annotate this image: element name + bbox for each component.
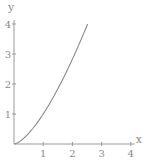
chart: 1234 1234 x y	[0, 0, 146, 161]
y-tick-label: 2	[5, 79, 11, 90]
x-tick-label: 1	[40, 148, 46, 159]
x-axis-label: x	[136, 133, 143, 146]
y-tick-label: 4	[5, 19, 11, 30]
x-tick-label: 3	[98, 148, 104, 159]
x-tick-label: 4	[128, 148, 134, 159]
x-tick-label: 2	[69, 148, 75, 159]
series-line	[14, 24, 88, 144]
y-tick-label: 1	[5, 109, 11, 120]
y-tick-label: 3	[5, 49, 11, 60]
y-axis-label: y	[7, 1, 15, 14]
